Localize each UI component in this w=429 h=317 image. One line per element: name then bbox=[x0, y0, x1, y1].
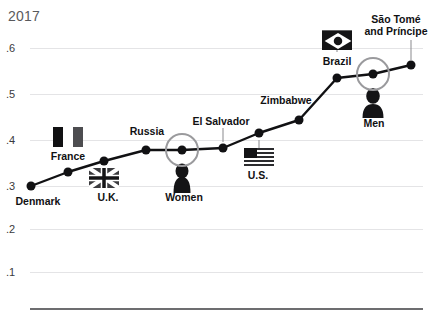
point-label-russia: Russia bbox=[130, 126, 164, 138]
y-tick-0.2: .2 bbox=[6, 223, 28, 235]
chart-year-title: 2017 bbox=[8, 8, 40, 24]
man-silhouette-icon bbox=[360, 88, 386, 118]
y-tick-0.1: .1 bbox=[6, 266, 28, 278]
data-point-brazil[interactable] bbox=[333, 74, 342, 83]
y-tick-0.6: .6 bbox=[6, 42, 28, 54]
data-point-el-salvador[interactable] bbox=[219, 144, 228, 153]
line-chart: 2017 .6 .5 .4 .3 .2 .1 bbox=[0, 0, 429, 317]
y-tick-0.5: .5 bbox=[6, 88, 28, 100]
data-point-men[interactable] bbox=[369, 70, 378, 79]
point-label-uk: U.K. bbox=[98, 192, 119, 204]
data-point-uk[interactable] bbox=[100, 157, 109, 166]
gridline-0.4 bbox=[30, 140, 423, 141]
flag-uk-icon bbox=[89, 168, 119, 188]
gridline-0.2 bbox=[30, 229, 423, 230]
axis-baseline bbox=[30, 308, 423, 310]
gridline-0.6 bbox=[30, 48, 423, 49]
point-label-sao-tome: São Tomé and Príncipe bbox=[364, 14, 427, 37]
data-point-france[interactable] bbox=[64, 168, 73, 177]
point-label-us: U.S. bbox=[248, 170, 268, 182]
data-point-sao-tome[interactable] bbox=[407, 61, 416, 70]
leader-line-sao-tome bbox=[411, 40, 412, 60]
y-tick-0.4: .4 bbox=[6, 134, 28, 146]
point-label-denmark: Denmark bbox=[16, 196, 61, 208]
leader-line-us bbox=[259, 140, 260, 148]
data-point-zimbabwe[interactable] bbox=[295, 116, 304, 125]
point-label-france: France bbox=[51, 151, 85, 163]
flag-france-icon bbox=[53, 127, 83, 147]
point-label-men: Men bbox=[364, 118, 385, 130]
data-point-us[interactable] bbox=[255, 129, 264, 138]
data-point-denmark[interactable] bbox=[27, 182, 36, 191]
flag-us-icon bbox=[244, 148, 274, 168]
y-tick-0.3: .3 bbox=[6, 180, 28, 192]
point-label-women: Women bbox=[165, 192, 203, 204]
leader-line-el-salvador bbox=[223, 128, 224, 142]
flag-brazil-icon bbox=[322, 30, 352, 50]
sao-tome-line-1: São Tomé bbox=[371, 13, 420, 25]
point-label-el-salvador: El Salvador bbox=[192, 116, 249, 128]
point-label-brazil: Brazil bbox=[323, 56, 352, 68]
sao-tome-line-2: and Príncipe bbox=[364, 25, 427, 37]
data-point-russia[interactable] bbox=[142, 146, 151, 155]
woman-silhouette-icon bbox=[169, 163, 195, 193]
gridline-0.1 bbox=[30, 272, 423, 273]
data-point-women[interactable] bbox=[178, 146, 187, 155]
point-label-zimbabwe: Zimbabwe bbox=[260, 95, 311, 107]
